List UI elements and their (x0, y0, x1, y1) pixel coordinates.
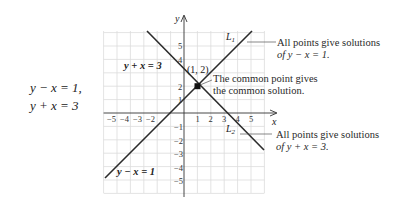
line-l2-equation: y + x = 3 (122, 60, 162, 71)
y-tick: −2 (174, 136, 183, 146)
intersection-point (195, 83, 201, 89)
x-tick: 1 (196, 114, 200, 124)
x-tick: −2 (146, 114, 155, 124)
l1-note-line2: of y − x = 1. (277, 49, 380, 61)
y-axis-label: y (174, 13, 180, 24)
point-note: The common point gives the common soluti… (213, 73, 318, 97)
y-tick: −5 (174, 176, 183, 186)
x-axis-label: x (271, 116, 277, 127)
y-tick: 2 (178, 82, 182, 92)
line-l1-equation: y − x = 1 (115, 166, 155, 177)
l2-note-line1: All points give solutions (276, 129, 379, 141)
l2-note-line2: of y + x = 3. (276, 141, 379, 153)
y-tick: −3 (174, 149, 183, 159)
x-tick: −4 (120, 114, 130, 124)
l2-note: All points give solutions of y + x = 3. (276, 129, 379, 153)
y-tick: −1 (174, 122, 183, 132)
x-tick: −3 (133, 114, 142, 124)
l1-note-line1: All points give solutions (277, 37, 380, 49)
point-note-line2: the common solution. (213, 85, 318, 97)
x-tick: 2 (209, 114, 213, 124)
x-tick: 5 (249, 114, 253, 124)
l1-note: All points give solutions of y − x = 1. (277, 37, 380, 61)
point-note-line1: The common point gives (213, 73, 318, 85)
line-l2-name: L2 (225, 123, 236, 136)
y-tick: 5 (178, 41, 182, 51)
x-tick: −5 (107, 114, 116, 124)
point-label: (1, 2) (187, 64, 209, 76)
y-tick: −4 (174, 163, 184, 173)
coordinate-graph: x y −5 −4 −3 −2 1 2 3 4 5 1 2 4 5 −1 −2 … (0, 0, 399, 202)
